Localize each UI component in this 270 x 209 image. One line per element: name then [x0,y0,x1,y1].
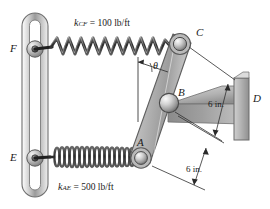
ball-B [159,93,178,112]
pin-A [131,148,151,168]
dim-upper-arrow-bottom [213,129,219,136]
label-point-E: E [10,151,17,163]
spring-ae-subscript: AE [62,184,71,192]
spring-cf [50,37,172,54]
label-point-B: B [178,86,185,98]
spring-ae-units: lb/ft [98,182,114,192]
label-point-A: A [137,136,144,148]
label-dimension-upper: 6 in. [208,99,224,109]
ball-B-sphere [159,93,178,112]
spring-cf-value: 100 [98,18,112,28]
wall-plate-top [234,72,249,78]
pin-A-ball [135,152,148,165]
label-point-C: C [196,26,203,38]
theta-arc [150,63,152,72]
mechanics-figure: kCF = 100 lb/ft kAE = 500 lb/ft F E C B … [0,0,270,209]
wall-plate [234,78,249,140]
figure-canvas [0,0,270,209]
spring-ae-value: 500 [81,182,95,192]
label-point-F: F [10,42,17,54]
label-dimension-lower: 6 in. [186,164,202,174]
label-point-D: D [253,92,261,104]
spring-ae-label: kAE = 500 lb/ft [58,176,114,194]
collar-F-stem [35,47,52,49]
spring-cf-label: kCF = 100 lb/ft [74,12,130,30]
pin-C-ball [173,37,186,50]
pin-C [170,34,191,55]
dim-lower-arrow-top [203,148,209,155]
bracket-front-face [168,104,244,124]
dim-upper-ext-top [189,47,235,80]
spring-cf-units: lb/ft [114,18,130,28]
theta-arrowhead [138,60,144,65]
label-angle-theta: θ [153,60,158,71]
